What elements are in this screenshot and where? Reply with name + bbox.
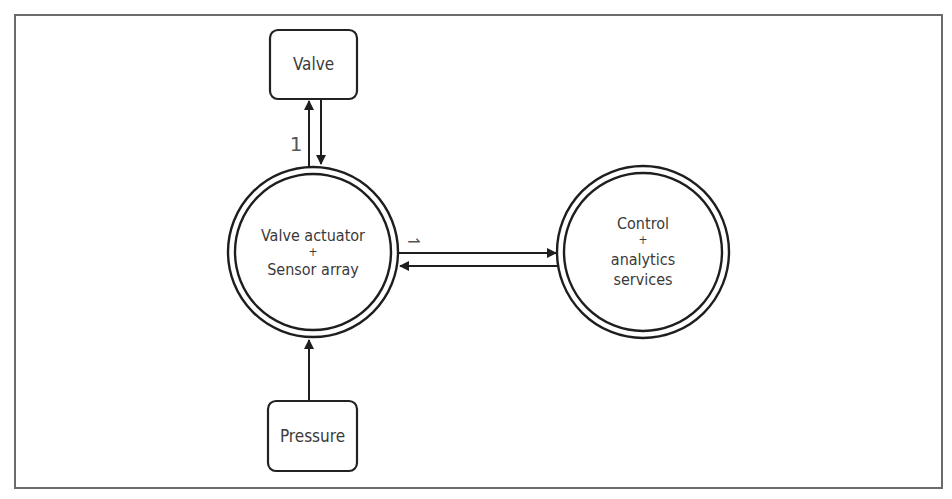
system-diagram: Valve 1 Valve actuator + Sensor array ⇀ … xyxy=(0,0,952,499)
control-label-line3: services xyxy=(613,270,672,289)
control-plus: + xyxy=(638,233,647,247)
control-label-line2: analytics xyxy=(611,250,675,269)
pressure-node: Pressure xyxy=(268,401,357,471)
control-node: Control + analytics services xyxy=(557,166,729,338)
valve-actuator-links: 1 xyxy=(290,99,321,166)
edge-label-control-link: ⇀ xyxy=(407,232,420,251)
valve-node: Valve xyxy=(270,30,357,99)
actuator-label-line2: Sensor array xyxy=(267,260,359,279)
actuator-control-links: ⇀ xyxy=(398,232,558,266)
edge-label-valve-link: 1 xyxy=(290,132,303,156)
actuator-node: Valve actuator + Sensor array xyxy=(228,167,398,337)
control-label-line1: Control xyxy=(617,214,669,233)
actuator-plus: + xyxy=(308,245,317,259)
actuator-label-line1: Valve actuator xyxy=(261,226,365,245)
pressure-label: Pressure xyxy=(280,426,345,446)
valve-label: Valve xyxy=(293,54,334,74)
